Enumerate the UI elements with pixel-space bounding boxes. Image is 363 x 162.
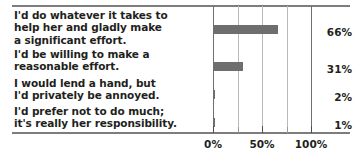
category-label-line: I'd do whatever it takes to xyxy=(14,9,204,21)
category-label-line: it's really her responsibility. xyxy=(14,117,204,129)
bar-series xyxy=(213,6,311,133)
category-label-line: I'd be willing to make a xyxy=(14,48,204,60)
axis-tick xyxy=(287,127,288,133)
value-label: 1% xyxy=(318,119,352,131)
plot-area xyxy=(213,6,311,133)
axis-tick xyxy=(311,126,312,133)
category-label: I'd do whatever it takes to help her and… xyxy=(14,9,204,46)
bar-chart: I'd do whatever it takes to help her and… xyxy=(0,0,363,162)
category-label: I'd prefer not to do much; it's really h… xyxy=(14,105,204,130)
category-label-line: help her and gladly make xyxy=(14,21,204,33)
category-label: I would lend a hand, but I'd privately b… xyxy=(14,77,204,102)
bar xyxy=(213,62,243,71)
axis-tick-label: 0% xyxy=(191,138,235,150)
value-label: 31% xyxy=(318,63,352,75)
category-label-line: I'd prefer not to do much; xyxy=(14,105,204,117)
value-labels: 66% 31% 2% 1% xyxy=(318,6,358,133)
axis-tick xyxy=(213,126,214,133)
axis-tick-label: 50% xyxy=(240,138,284,150)
category-label-line: reasonable effort. xyxy=(14,60,204,72)
gridline xyxy=(311,6,312,133)
x-axis: 0%50%100% xyxy=(213,133,311,159)
category-label-line: I would lend a hand, but xyxy=(14,77,204,89)
category-label: I'd be willing to make a reasonable effo… xyxy=(14,48,204,73)
category-label-line: a significant effort. xyxy=(14,34,204,46)
bar xyxy=(213,25,278,34)
category-labels: I'd do whatever it takes to help her and… xyxy=(14,7,204,131)
axis-tick xyxy=(262,126,263,133)
bar xyxy=(213,90,215,99)
axis-tick-label: 100% xyxy=(289,138,333,150)
axis-tick xyxy=(238,127,239,133)
value-label: 2% xyxy=(318,91,352,103)
category-label-line: I'd privately be annoyed. xyxy=(14,89,204,101)
value-label: 66% xyxy=(318,26,352,38)
